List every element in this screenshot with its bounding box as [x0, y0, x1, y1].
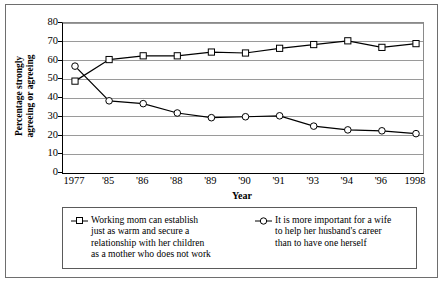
- data-point-square-'86[interactable]: [140, 53, 146, 59]
- data-point-square-'85[interactable]: [106, 56, 112, 62]
- data-point-circle-'90[interactable]: [242, 113, 249, 120]
- legend-square-marker-icon: [71, 215, 88, 227]
- y-axis-tick-labels: 01020304050607080: [30, 22, 58, 172]
- legend-label-line-1: Working mom can establish: [91, 214, 211, 225]
- x-axis-tick-labels: 1977'85'86'88'89'90'91'93'94'961998: [62, 175, 422, 189]
- y-tick-mark-0: [58, 172, 62, 173]
- legend-label-line-3: relationship with her children: [91, 237, 211, 248]
- y-tick-label-0: 0: [36, 166, 58, 177]
- figure-container: Percentage strongly agreeing or agreeing…: [0, 0, 443, 283]
- y-tick-mark-40: [58, 97, 62, 98]
- data-point-square-'90[interactable]: [242, 50, 248, 56]
- data-point-square-'91[interactable]: [277, 45, 283, 51]
- y-tick-label-80: 80: [36, 16, 58, 27]
- x-tick-label-9: '96: [375, 175, 387, 187]
- x-tick-label-8: '94: [341, 175, 353, 187]
- data-point-circle-'89[interactable]: [208, 114, 215, 121]
- legend-label-working-mom: Working mom can establish just as warm a…: [91, 214, 211, 260]
- y-tick-label-30: 30: [36, 110, 58, 121]
- data-point-circle-1998[interactable]: [413, 130, 420, 137]
- y-axis-title-line-1: Percentage strongly: [14, 18, 25, 174]
- y-tick-label-70: 70: [36, 35, 58, 46]
- data-point-square-'94[interactable]: [345, 38, 351, 44]
- x-tick-label-10: 1998: [405, 175, 426, 187]
- y-tick-label-60: 60: [36, 54, 58, 65]
- data-point-circle-'94[interactable]: [345, 127, 352, 134]
- data-point-square-'93[interactable]: [311, 41, 317, 47]
- legend-item-husband-career[interactable]: It is more important for a wife to help …: [255, 214, 415, 248]
- data-point-square-'88[interactable]: [174, 53, 180, 59]
- x-tick-label-3: '88: [170, 175, 182, 187]
- x-tick-label-1: '85: [102, 175, 114, 187]
- data-point-circle-'91[interactable]: [276, 113, 283, 120]
- data-point-circle-'86[interactable]: [140, 100, 147, 107]
- y-tick-label-40: 40: [36, 91, 58, 102]
- data-point-square-1998[interactable]: [413, 41, 419, 47]
- series-husband-career: [72, 63, 420, 137]
- y-tick-mark-80: [58, 22, 62, 23]
- data-point-square-1977[interactable]: [72, 78, 78, 84]
- data-point-circle-'88[interactable]: [174, 110, 181, 117]
- data-point-square-'96[interactable]: [379, 44, 385, 50]
- legend-label-line-3: than to have one herself: [275, 237, 391, 248]
- data-point-circle-'93[interactable]: [310, 123, 317, 130]
- legend-label-line-4: as a mother who does not work: [91, 248, 211, 259]
- data-point-circle-1977[interactable]: [72, 63, 79, 70]
- y-tick-mark-20: [58, 135, 62, 136]
- x-tick-label-4: '89: [204, 175, 216, 187]
- y-tick-mark-30: [58, 116, 62, 117]
- legend-label-line-1: It is more important for a wife: [275, 214, 391, 225]
- legend-circle-marker-icon: [255, 215, 272, 227]
- series-working-mom: [72, 38, 419, 85]
- legend-item-working-mom[interactable]: Working mom can establish just as warm a…: [71, 214, 249, 260]
- legend-label-line-2: to help her husband's career: [275, 225, 391, 236]
- y-tick-label-20: 20: [36, 129, 58, 140]
- data-point-circle-'96[interactable]: [379, 128, 386, 135]
- x-tick-label-5: '90: [238, 175, 250, 187]
- x-axis-title: Year: [62, 190, 422, 201]
- chart-series-layer: [63, 23, 423, 173]
- plot-area: [62, 22, 424, 174]
- y-tick-mark-10: [58, 153, 62, 154]
- y-tick-mark-50: [58, 78, 62, 79]
- legend-label-husband-career: It is more important for a wife to help …: [275, 214, 391, 248]
- series-line: [75, 41, 416, 81]
- y-tick-label-10: 10: [36, 147, 58, 158]
- data-point-square-'89[interactable]: [208, 49, 214, 55]
- data-point-circle-'85[interactable]: [106, 98, 113, 105]
- x-tick-label-7: '93: [306, 175, 318, 187]
- x-tick-label-2: '86: [136, 175, 148, 187]
- y-tick-label-50: 50: [36, 72, 58, 83]
- x-tick-label-0: 1977: [64, 175, 85, 187]
- y-tick-mark-70: [58, 41, 62, 42]
- y-tick-mark-60: [58, 60, 62, 61]
- chart-legend: Working mom can establish just as warm a…: [62, 207, 417, 269]
- x-tick-label-6: '91: [272, 175, 284, 187]
- series-line: [75, 66, 416, 134]
- legend-label-line-2: just as warm and secure a: [91, 225, 211, 236]
